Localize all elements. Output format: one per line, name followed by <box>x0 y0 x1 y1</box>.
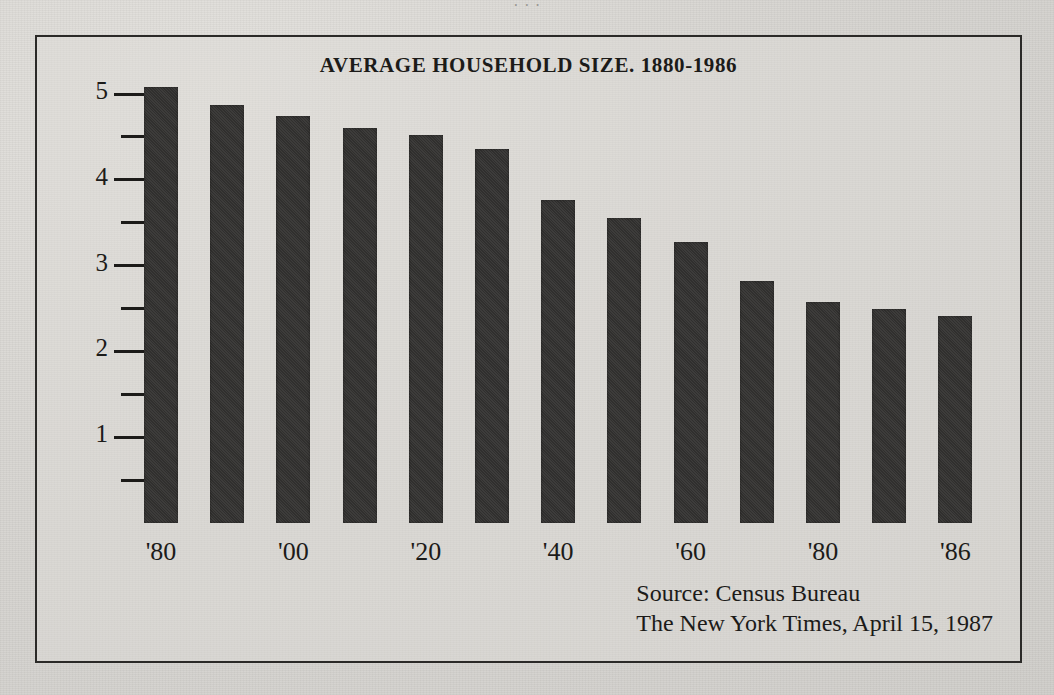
bar <box>210 105 244 523</box>
bleed-through-text: · · · <box>0 0 1054 10</box>
bar <box>740 281 774 523</box>
y-axis-tick-minor <box>121 307 144 310</box>
bar <box>475 149 509 523</box>
bar <box>806 302 840 523</box>
chart-frame: AVERAGE HOUSEHOLD SIZE. 1880-1986 12345'… <box>35 35 1022 663</box>
x-axis-label: '60 <box>651 537 731 567</box>
bar <box>409 135 443 523</box>
y-axis-tick-major <box>114 436 144 439</box>
y-axis-tick-major <box>114 264 144 267</box>
y-axis-label: 5 <box>78 77 108 105</box>
bar <box>144 87 178 523</box>
y-axis-tick-major <box>114 350 144 353</box>
source-note: Source: Census Bureau The New York Times… <box>636 578 993 639</box>
y-axis-label: 1 <box>78 420 108 448</box>
y-axis-tick-major <box>114 178 144 181</box>
x-axis-label: '20 <box>386 537 466 567</box>
y-axis-label: 4 <box>78 163 108 191</box>
x-axis-label: '40 <box>518 537 598 567</box>
y-axis-tick-minor <box>121 135 144 138</box>
y-axis-tick-minor <box>121 479 144 482</box>
y-axis-tick-minor <box>121 393 144 396</box>
plot-area: 12345'80'00'20'40'60'80'86 <box>37 37 1024 665</box>
y-axis-label: 3 <box>78 249 108 277</box>
x-axis-label: '86 <box>915 537 995 567</box>
y-axis-label: 2 <box>78 334 108 362</box>
bar <box>541 200 575 523</box>
x-axis-label: '00 <box>253 537 333 567</box>
source-line-1: Source: Census Bureau <box>636 578 993 609</box>
bar <box>276 116 310 523</box>
source-line-2: The New York Times, April 15, 1987 <box>636 608 993 639</box>
y-axis-tick-minor <box>121 221 144 224</box>
x-axis-label: '80 <box>121 537 201 567</box>
bar <box>938 316 972 523</box>
bar <box>343 128 377 523</box>
x-axis-label: '80 <box>783 537 863 567</box>
y-axis-tick-major <box>114 93 144 96</box>
bar <box>872 309 906 523</box>
bar <box>674 242 708 523</box>
bar <box>607 218 641 523</box>
